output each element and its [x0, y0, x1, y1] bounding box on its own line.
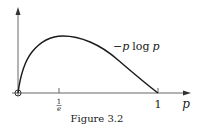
x-axis-arrow-icon: [183, 91, 191, 96]
figure-3-2: −plogp 1 e 1 p Figure 3.2: [0, 0, 202, 132]
x-axis-label: p: [182, 97, 190, 111]
chart-svg: −plogp 1 e 1 p Figure 3.2: [0, 0, 202, 132]
y-axis-arrow-icon: [16, 7, 21, 15]
tick-label-one: 1: [155, 98, 162, 111]
curve-label: −plogp: [113, 40, 160, 53]
figure-caption: Figure 3.2: [71, 113, 124, 124]
tick-label-inv-e-denominator: e: [57, 105, 61, 113]
